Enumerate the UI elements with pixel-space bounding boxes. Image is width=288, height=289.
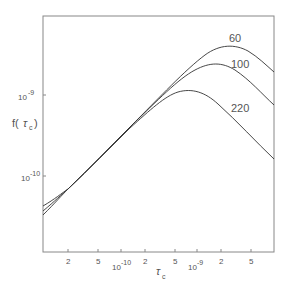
svg-text:c: c xyxy=(162,273,166,280)
svg-text:5: 5 xyxy=(96,257,101,266)
chart: 60 100 220 10 -9 10 -10 f( τ c ) 2 5 10 … xyxy=(0,0,288,289)
svg-text:-9: -9 xyxy=(197,259,203,266)
curve-label-60: 60 xyxy=(229,32,241,44)
svg-text:-10: -10 xyxy=(30,170,40,177)
svg-text:f(: f( xyxy=(12,117,19,129)
curve-100 xyxy=(43,64,274,211)
y-tick-label-1e-10: 10 -10 xyxy=(21,170,40,183)
svg-text:-9: -9 xyxy=(28,89,34,96)
plot-frame xyxy=(43,16,274,252)
svg-text:): ) xyxy=(34,117,38,129)
svg-text:τ: τ xyxy=(23,117,28,129)
svg-text:τ: τ xyxy=(156,265,161,277)
curve-label-100: 100 xyxy=(231,58,249,70)
svg-text:2: 2 xyxy=(219,257,224,266)
svg-text:5: 5 xyxy=(173,257,178,266)
svg-text:5: 5 xyxy=(249,257,254,266)
svg-text:2: 2 xyxy=(66,257,71,266)
x-axis-label: τ c xyxy=(156,265,166,280)
curve-label-220: 220 xyxy=(231,102,249,114)
svg-text:-10: -10 xyxy=(121,259,131,266)
svg-text:10: 10 xyxy=(18,93,27,102)
y-tick-label-1e-9: 10 -9 xyxy=(18,89,34,102)
y-axis-label: f( τ c ) xyxy=(12,117,38,131)
svg-text:c: c xyxy=(29,124,33,131)
svg-text:2: 2 xyxy=(143,257,148,266)
curve-60 xyxy=(43,46,274,206)
